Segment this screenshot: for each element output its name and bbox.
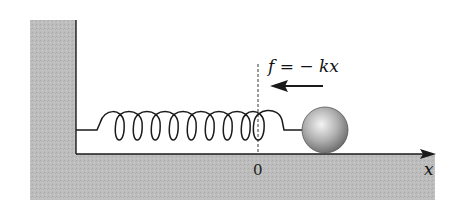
spring-mass-diagram: f = − kx 0 x xyxy=(0,0,456,213)
spring xyxy=(76,110,305,140)
origin-label: 0 xyxy=(253,161,263,179)
mass-ball xyxy=(302,107,348,153)
axis-label: x xyxy=(424,159,434,179)
force-arrow xyxy=(270,80,323,92)
force-label: f = − kx xyxy=(266,56,339,76)
ground-wall xyxy=(30,20,435,200)
